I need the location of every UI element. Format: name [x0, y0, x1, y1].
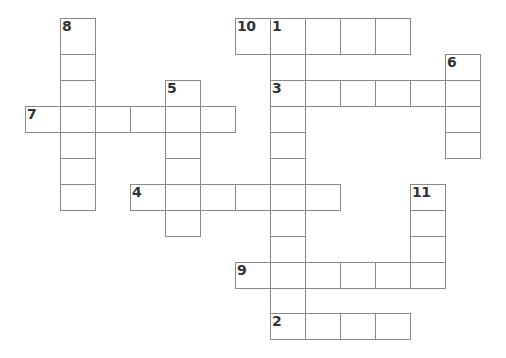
- crossword-cell[interactable]: [270, 132, 306, 159]
- crossword-cell[interactable]: 3: [270, 80, 306, 107]
- crossword-cell[interactable]: [375, 18, 411, 55]
- crossword-cell[interactable]: 7: [25, 106, 61, 133]
- crossword-cell[interactable]: 2: [270, 313, 306, 340]
- clue-number-label: 8: [62, 19, 71, 33]
- crossword-cell[interactable]: [165, 210, 201, 237]
- crossword-cell[interactable]: 4: [130, 184, 166, 211]
- crossword-cell[interactable]: 9: [235, 262, 271, 289]
- crossword-cell[interactable]: [270, 184, 306, 211]
- crossword-cell[interactable]: [445, 106, 481, 133]
- crossword-cell[interactable]: [305, 184, 341, 211]
- crossword-cell[interactable]: [60, 132, 96, 159]
- clue-number-label: 1: [272, 19, 281, 33]
- crossword-cell[interactable]: [340, 262, 376, 289]
- crossword-cell[interactable]: [270, 106, 306, 133]
- clue-number-label: 2: [272, 314, 281, 328]
- crossword-cell[interactable]: [60, 106, 96, 133]
- crossword-cell[interactable]: [95, 106, 131, 133]
- crossword-cell[interactable]: [130, 106, 166, 133]
- crossword-cell[interactable]: [305, 18, 341, 55]
- crossword-cell[interactable]: [375, 313, 411, 340]
- crossword-cell[interactable]: [305, 262, 341, 289]
- crossword-cell[interactable]: 6: [445, 54, 481, 81]
- clue-number-label: 3: [272, 81, 281, 95]
- crossword-cell[interactable]: [270, 236, 306, 263]
- clue-number-label: 9: [237, 263, 246, 277]
- clue-number-label: 7: [27, 107, 36, 121]
- crossword-cell[interactable]: [60, 80, 96, 107]
- crossword-cell[interactable]: [270, 54, 306, 81]
- clue-number-label: 6: [447, 55, 456, 69]
- crossword-cell[interactable]: [410, 262, 446, 289]
- crossword-cell[interactable]: [165, 132, 201, 159]
- crossword-cell[interactable]: [165, 184, 201, 211]
- crossword-cell[interactable]: [410, 210, 446, 237]
- crossword-cell[interactable]: [445, 80, 481, 107]
- clue-number-label: 4: [132, 185, 141, 199]
- crossword-cell[interactable]: [270, 288, 306, 314]
- crossword-cell[interactable]: [270, 158, 306, 185]
- crossword-cell[interactable]: [305, 313, 341, 340]
- crossword-cell[interactable]: 5: [165, 80, 201, 107]
- crossword-cell[interactable]: [270, 262, 306, 289]
- crossword-cell[interactable]: [340, 313, 376, 340]
- crossword-cell[interactable]: [340, 18, 376, 55]
- clue-number-label: 10: [237, 19, 255, 33]
- crossword-cell[interactable]: [60, 54, 96, 81]
- crossword-cell[interactable]: 8: [60, 18, 96, 55]
- crossword-cell[interactable]: [235, 184, 271, 211]
- crossword-cell[interactable]: [410, 80, 446, 107]
- crossword-cell[interactable]: 11: [410, 184, 446, 211]
- crossword-cell[interactable]: 1: [270, 18, 306, 55]
- clue-number-label: 5: [167, 81, 176, 95]
- crossword-cell[interactable]: [270, 210, 306, 237]
- crossword-cell[interactable]: [165, 106, 201, 133]
- crossword-cell[interactable]: [165, 158, 201, 185]
- crossword-grid: 8101326574119: [0, 0, 506, 358]
- crossword-cell[interactable]: [200, 106, 236, 133]
- clue-number-label: 11: [412, 185, 430, 199]
- crossword-cell[interactable]: 10: [235, 18, 271, 55]
- crossword-cell[interactable]: [375, 262, 411, 289]
- crossword-cell[interactable]: [60, 184, 96, 211]
- crossword-cell[interactable]: [305, 80, 341, 107]
- crossword-cell[interactable]: [340, 80, 376, 107]
- crossword-cell[interactable]: [445, 132, 481, 159]
- crossword-cell[interactable]: [375, 80, 411, 107]
- crossword-cell[interactable]: [410, 236, 446, 263]
- crossword-cell[interactable]: [60, 158, 96, 185]
- crossword-cell[interactable]: [200, 184, 236, 211]
